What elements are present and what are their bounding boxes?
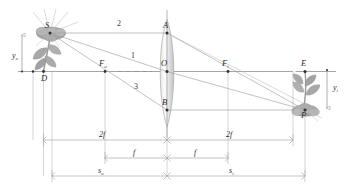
label-Fi: Fi	[221, 58, 229, 69]
label-2f-left: 2f	[99, 130, 107, 139]
label-image-height: yi	[332, 83, 339, 93]
optics-ray-diagram: yo yi S D Fo A O B Fi E P 2 1 3 2f	[0, 0, 354, 186]
label-f-left: f	[133, 148, 137, 157]
label-2f-right: 2f	[226, 130, 234, 139]
label-ray-3: 3	[134, 82, 138, 91]
label-O: O	[161, 58, 167, 68]
label-D: D	[40, 73, 48, 83]
object-height-arrow	[21, 35, 23, 73]
label-s-image: si	[229, 166, 234, 176]
point-S-marker	[49, 32, 52, 35]
point-A-marker	[166, 32, 169, 35]
label-P: P	[300, 110, 306, 120]
point-B-marker	[166, 109, 169, 112]
label-object-height: yo	[11, 51, 19, 61]
label-ray-1: 1	[131, 51, 135, 60]
label-Fo: Fo	[98, 58, 107, 69]
dimension-row-s	[52, 170, 306, 182]
dimension-row-f	[105, 152, 229, 164]
label-f-right: f	[194, 148, 198, 157]
label-s-object: so	[98, 166, 104, 176]
image-flower	[292, 72, 322, 122]
label-ray-2: 2	[117, 19, 121, 28]
point-E-marker	[304, 70, 307, 73]
label-A: A	[162, 20, 169, 30]
point-Fo-marker	[104, 70, 107, 73]
image-height-arrow	[326, 69, 328, 108]
label-E: E	[300, 58, 307, 68]
point-O-marker	[166, 70, 169, 73]
label-B: B	[162, 97, 167, 107]
point-Fi-marker	[227, 70, 230, 73]
dimension-row-2f	[43, 134, 293, 146]
